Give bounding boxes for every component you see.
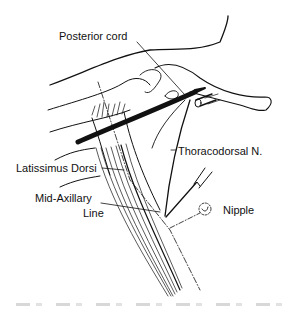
needle <box>166 183 196 217</box>
nerve-bar <box>78 92 195 142</box>
figure-caption-illegible <box>16 303 288 306</box>
thoracodorsal-nerve <box>165 100 190 216</box>
illustration <box>0 0 288 314</box>
nipple-line <box>170 213 200 228</box>
label-nipple: Nipple <box>223 204 254 216</box>
nipple-icon <box>199 203 211 215</box>
label-latissimus-dorsi: Latissimus Dorsi <box>16 162 97 174</box>
anatomical-figure: Posterior cord Thoracodorsal N. Latissim… <box>0 0 288 314</box>
label-thoracodorsal-nerve: Thoracodorsal N. <box>178 145 262 157</box>
arm-contour <box>48 78 150 110</box>
label-posterior-cord: Posterior cord <box>59 30 127 42</box>
shoulder-outline <box>50 16 228 85</box>
label-mid-axillary: Mid-Axillary <box>35 192 92 204</box>
label-line: Line <box>83 207 104 219</box>
